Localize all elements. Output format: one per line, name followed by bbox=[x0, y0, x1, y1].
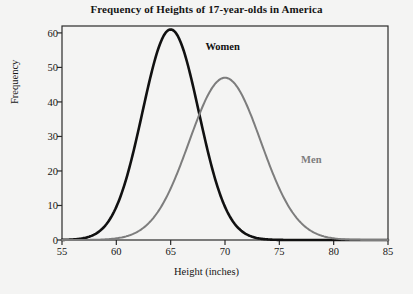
series-label-women: Women bbox=[205, 41, 239, 52]
series-curve-women bbox=[62, 29, 388, 240]
series-label-men: Men bbox=[301, 154, 321, 165]
chart-figure: Frequency of Heights of 17-year-olds in … bbox=[0, 0, 413, 294]
